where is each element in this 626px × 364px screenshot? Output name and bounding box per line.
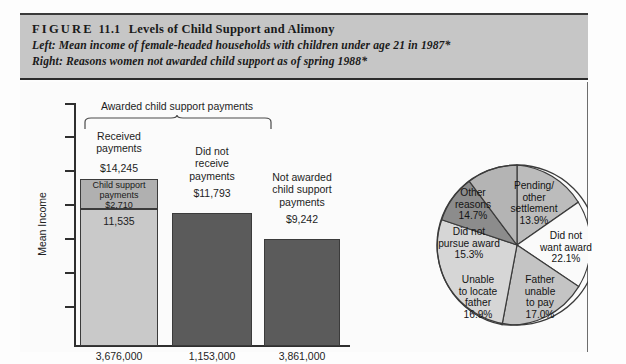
y-axis-tick [65,136,75,138]
pie-label-pending-other-settlement: Pending/ other settlement 13.9% [498,180,570,227]
pie-label-father-unable-to-pay: Father unable to pay 17.0% [509,274,571,321]
y-axis-tick [65,306,75,308]
bar-1-total-value: $14,245 [80,162,158,174]
figure-header-band: FIGURE11.1Levels of Child Support and Al… [20,13,588,80]
bar-chart: Mean Income Awarded child support paymen… [20,82,350,352]
y-axis-label: Mean Income [36,169,48,279]
bar-2-total-value: $11,793 [172,187,252,199]
bar-3 [264,239,340,346]
brace-icon [83,114,273,130]
bar-3-count: 3,861,000 [260,350,344,362]
bar-2 [172,213,252,346]
y-axis-line [74,103,76,347]
bar-2-count: 1,153,000 [172,350,252,362]
bar-1-count: 3,676,000 [80,350,158,362]
figure-title-line: FIGURE11.1Levels of Child Support and Al… [32,21,588,38]
bar-1-segment-other-income [80,209,158,346]
page-title: Levels of Child Support and Alimony [129,22,335,36]
y-axis-tick [65,170,75,172]
figure-label-word: FIGURE [32,22,94,36]
pie-label-did-not-want-award: Did not want award 22.1% [528,230,604,265]
bar-3-total-value: $9,242 [260,213,344,225]
figure-subtitle-left: Left: Mean income of female-headed house… [32,38,588,54]
bar-1-caption: Received payments [80,130,158,155]
y-axis-tick [65,204,75,206]
bar-1-segment-child-support-label: Child support payments $2,710 [80,180,158,210]
y-axis-tick [65,272,75,274]
y-axis-tick [65,238,75,240]
bar-2-caption: Did not receive payments [172,145,252,182]
figure-container: FIGURE11.1Levels of Child Support and Al… [0,0,626,364]
chart-panel: Mean Income Awarded child support paymen… [20,82,588,352]
pie-label-other-reasons: Other reasons 14.7% [442,187,504,222]
brace-caption: Awarded child support payments [62,100,292,112]
pie-chart: Pending/ other settlement 13.9% Did not … [350,82,588,352]
bar-1-segment-other-income-label: 11,535 [80,215,158,227]
figure-subtitle-right: Right: Reasons women not awarded child s… [32,54,588,70]
figure-number: 11.1 [99,23,121,35]
pie-label-did-not-pursue-award: Did not pursue award 15.3% [428,226,510,261]
bar-3-caption: Not awarded child support payments [260,171,344,208]
pie-label-unable-to-locate-father: Unable to locate father 16.9% [447,274,509,321]
